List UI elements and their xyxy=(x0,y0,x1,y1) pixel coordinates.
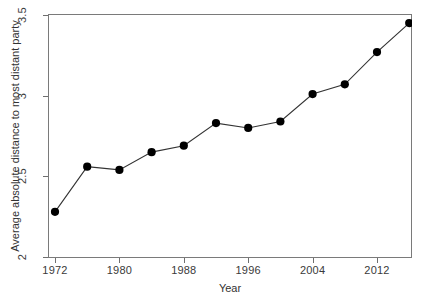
x-axis-tick xyxy=(313,258,314,263)
x-axis-tick xyxy=(184,258,185,263)
series-line xyxy=(55,23,409,212)
x-axis-tick-label: 1996 xyxy=(236,264,261,276)
y-axis-tick xyxy=(43,15,48,16)
x-axis-tick xyxy=(377,258,378,263)
data-point xyxy=(115,166,123,174)
data-point xyxy=(51,208,59,216)
data-point xyxy=(244,124,252,132)
y-axis-tick xyxy=(43,257,48,258)
data-point xyxy=(83,163,91,171)
data-point xyxy=(373,48,381,56)
series-points xyxy=(51,19,412,216)
x-axis-tick-label: 1972 xyxy=(42,264,67,276)
x-axis-tick xyxy=(248,258,249,263)
y-axis-tick xyxy=(43,176,48,177)
y-axis-tick-label: 2 xyxy=(16,254,28,260)
chart-figure: 197219801988199620042012 22.533.5 Year A… xyxy=(0,0,428,303)
data-point xyxy=(212,119,220,127)
x-axis-tick xyxy=(119,258,120,263)
plot-series-svg xyxy=(48,14,412,258)
data-point xyxy=(148,148,156,156)
data-point xyxy=(276,117,284,125)
data-point xyxy=(309,90,317,98)
data-point xyxy=(341,80,349,88)
x-axis-tick-label: 1988 xyxy=(171,264,196,276)
x-axis-tick-label: 2012 xyxy=(364,264,389,276)
y-axis-title: Average absolute distance to most distan… xyxy=(9,20,21,252)
x-axis-title: Year xyxy=(48,282,412,294)
data-point xyxy=(180,142,188,150)
x-axis-tick xyxy=(55,258,56,263)
x-axis-tick-label: 2004 xyxy=(300,264,325,276)
x-axis-tick-label: 1980 xyxy=(107,264,132,276)
y-axis-tick xyxy=(43,96,48,97)
